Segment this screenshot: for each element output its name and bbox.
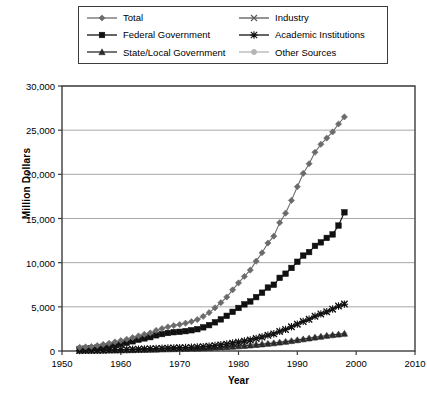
data-point-marker xyxy=(312,243,318,249)
data-point-marker xyxy=(159,325,165,331)
data-point-marker xyxy=(99,32,105,38)
y-axis-title: Million Dollars xyxy=(21,124,32,244)
data-point-marker xyxy=(165,330,171,336)
legend-marker-diamond-icon xyxy=(85,12,119,24)
legend-marker-star-icon xyxy=(237,29,271,41)
legend-marker-triangle-icon xyxy=(85,46,119,58)
data-point-marker xyxy=(229,339,236,346)
data-point-marker xyxy=(335,302,342,309)
data-point-marker xyxy=(205,342,212,349)
data-point-marker xyxy=(171,322,177,328)
data-point-marker xyxy=(276,328,283,335)
series-line xyxy=(80,212,345,349)
data-point-marker xyxy=(283,271,289,277)
data-point-marker xyxy=(177,321,183,327)
legend-label: State/Local Government xyxy=(123,48,225,58)
data-point-marker xyxy=(165,324,171,330)
legend-entry-industry: Industry xyxy=(237,12,393,24)
data-point-marker xyxy=(194,316,200,322)
data-point-marker xyxy=(258,333,265,340)
y-tick-label: 20,000 xyxy=(0,169,55,180)
data-point-marker xyxy=(189,327,195,333)
data-point-marker xyxy=(295,259,301,265)
data-point-marker xyxy=(241,337,248,344)
y-tick-label: 10,000 xyxy=(0,257,55,268)
data-point-marker xyxy=(250,31,257,38)
data-point-marker xyxy=(318,240,324,246)
grid-lines xyxy=(62,86,415,307)
data-point-marker xyxy=(289,265,295,271)
data-point-marker xyxy=(306,249,312,255)
x-axis-title: Year xyxy=(62,375,415,386)
legend-entry-academic-institutions: Academic Institutions xyxy=(237,29,393,41)
data-point-marker xyxy=(212,319,218,325)
data-point-marker xyxy=(259,290,265,296)
chart-legend: TotalIndustryFederal GovernmentAcademic … xyxy=(78,6,388,64)
legend-label: Other Sources xyxy=(275,48,336,58)
legend-entry-total: Total xyxy=(85,12,237,24)
data-point-marker xyxy=(277,220,283,226)
data-point-marker xyxy=(236,305,242,311)
data-point-marker xyxy=(242,302,248,308)
legend-entry-federal-government: Federal Government xyxy=(85,29,237,41)
y-tick-label: 25,000 xyxy=(0,125,55,136)
y-tick-label: 15,000 xyxy=(0,213,55,224)
legend-marker-cross-icon xyxy=(237,12,271,24)
data-point-marker xyxy=(247,336,254,343)
legend-entry-state-local-government: State/Local Government xyxy=(85,46,237,58)
data-point-marker xyxy=(247,299,253,305)
data-point-marker xyxy=(183,328,189,334)
legend-marker-circle-icon xyxy=(237,46,271,58)
data-point-marker xyxy=(277,275,283,281)
data-point-marker xyxy=(177,329,183,335)
data-point-marker xyxy=(300,170,306,176)
x-tick-label: 1990 xyxy=(287,358,308,369)
x-tick-label: 2000 xyxy=(346,358,367,369)
data-point-marker xyxy=(341,301,348,308)
data-point-marker xyxy=(171,329,177,335)
legend-label: Industry xyxy=(275,13,309,23)
x-tick-label: 2010 xyxy=(404,358,425,369)
data-point-marker xyxy=(235,338,242,345)
x-tick-label: 1970 xyxy=(169,358,190,369)
series-total xyxy=(77,114,348,351)
x-tick-label: 1980 xyxy=(228,358,249,369)
x-tick-label: 1950 xyxy=(51,358,72,369)
data-point-marker xyxy=(217,341,224,348)
data-point-marker xyxy=(188,318,194,324)
data-point-marker xyxy=(336,223,342,229)
axis-ticks xyxy=(58,86,415,355)
data-point-marker xyxy=(195,326,201,332)
data-point-marker xyxy=(282,210,288,216)
data-point-marker xyxy=(330,232,336,238)
data-point-marker xyxy=(253,294,259,300)
data-point-marker xyxy=(294,184,300,190)
legend-label: Academic Institutions xyxy=(275,30,365,40)
y-tick-label: 0 xyxy=(0,346,55,357)
data-point-marker xyxy=(211,342,218,349)
data-point-marker xyxy=(200,325,206,331)
data-point-marker xyxy=(271,282,277,288)
data-point-marker xyxy=(264,332,271,339)
data-point-marker xyxy=(206,322,212,328)
data-point-marker xyxy=(251,50,256,55)
data-point-marker xyxy=(324,235,330,241)
series-federal-government xyxy=(77,210,347,352)
legend-entry-other-sources: Other Sources xyxy=(237,46,393,58)
data-point-marker xyxy=(300,253,306,259)
y-tick-label: 30,000 xyxy=(0,81,55,92)
legend-marker-square-icon xyxy=(85,29,119,41)
data-point-marker xyxy=(230,309,236,315)
data-point-marker xyxy=(265,285,271,291)
data-point-marker xyxy=(223,340,230,347)
data-point-marker xyxy=(182,320,188,326)
data-point-marker xyxy=(218,317,224,323)
chart-figure: TotalIndustryFederal GovernmentAcademic … xyxy=(0,0,427,394)
data-point-marker xyxy=(252,335,259,342)
data-point-marker xyxy=(288,197,294,203)
y-tick-label: 5,000 xyxy=(0,301,55,312)
x-tick-label: 1960 xyxy=(110,358,131,369)
data-point-marker xyxy=(342,210,348,216)
data-point-marker xyxy=(306,161,312,167)
legend-label: Federal Government xyxy=(123,30,210,40)
